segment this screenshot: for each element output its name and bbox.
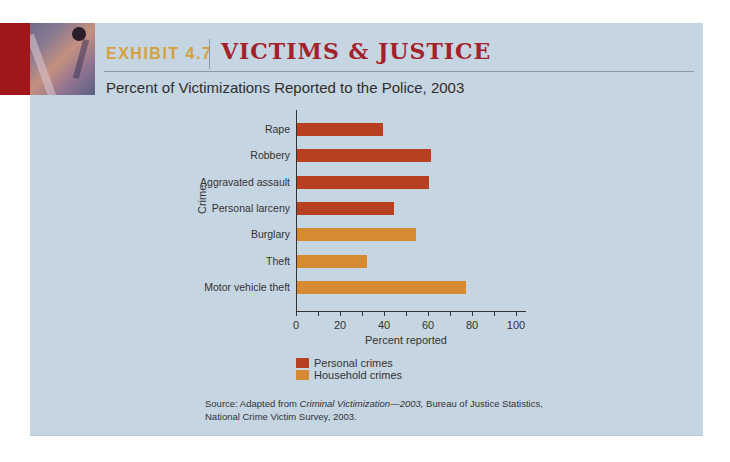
x-tick [384,311,385,316]
category-label: Burglary [251,228,290,240]
bar-burglary [297,228,416,241]
accent-red-block [0,23,30,95]
category-label: Rape [265,123,290,135]
y-axis-label: Crime [196,185,208,214]
exhibit-label: EXHIBIT 4.7 [106,45,212,63]
x-axis-label: Percent reported [296,334,516,346]
category-label: Robbery [250,149,290,161]
category-label: Theft [266,255,290,267]
category-label: Motor vehicle theft [204,281,290,293]
header-rule [104,71,694,72]
legend-label-household: Household crimes [314,369,402,381]
x-tick [362,311,363,316]
x-tick [516,311,517,316]
x-tick [450,311,451,316]
bar-theft [297,255,367,268]
photo-light-beam [30,34,58,95]
source-title: Criminal Victimization—2003, [300,398,424,409]
x-tick [406,311,407,316]
legend-item-household: Household crimes [296,369,402,381]
x-tick [428,311,429,316]
x-tick-label: 20 [325,319,355,331]
bar-aggravated-assault [297,176,429,189]
header-photo [30,23,95,95]
legend-swatch-household [296,370,309,380]
category-label: Personal larceny [212,202,290,214]
source-note: Source: Adapted from Criminal Victimizat… [205,397,545,423]
x-tick-label: 0 [281,319,311,331]
legend-item-personal: Personal crimes [296,357,393,369]
x-tick [494,311,495,316]
bar-personal-larceny [297,202,394,215]
x-tick [296,311,297,316]
legend-label-personal: Personal crimes [314,357,393,369]
x-tick [340,311,341,316]
category-label: Aggravated assault [200,176,290,188]
bar-rape [297,123,383,136]
chart-title: Percent of Victimizations Reported to th… [106,79,464,96]
source-prefix: Source: Adapted from [205,398,300,409]
photo-shadow [73,39,89,79]
bar-motor-vehicle-theft [297,281,466,294]
brand-title: VICTIMS & JUSTICE [221,38,491,64]
x-tick [318,311,319,316]
legend-swatch-personal [296,358,309,368]
x-axis-line [296,311,526,312]
x-tick-label: 100 [501,319,531,331]
bar-robbery [297,149,431,162]
header-divider [209,39,210,69]
x-tick [472,311,473,316]
x-tick-label: 60 [413,319,443,331]
x-tick-label: 40 [369,319,399,331]
x-tick-label: 80 [457,319,487,331]
photo-figure [72,27,86,41]
